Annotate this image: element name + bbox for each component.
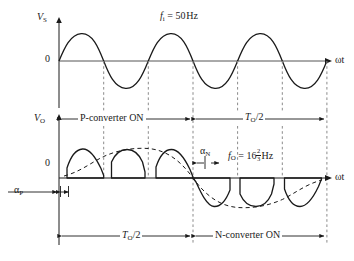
supply-y-axis-label: VS — [37, 12, 47, 24]
supply-crossing-guides — [104, 61, 327, 112]
output-frequency-value: 16 — [246, 150, 256, 161]
output-zero-label: 0 — [45, 158, 50, 168]
waveform-canvas — [0, 0, 354, 261]
half-period-top-label: TO/2 — [243, 112, 265, 124]
cycloconverter-waveform-figure: VS 0 ωt fi = 50 Hz VO 0 ωt P-converter O… — [0, 0, 354, 261]
output-frequency-fraction: 23 — [256, 148, 260, 162]
output-frequency-unit: Hz — [262, 150, 274, 161]
output-frequency-sub: O — [231, 154, 236, 162]
output-frequency-label: fO = 1623 Hz — [228, 148, 273, 162]
input-frequency-unit: Hz — [186, 10, 198, 21]
p-converter-label: P-converter ON — [78, 113, 146, 123]
output-y-axis-arrow — [56, 114, 62, 120]
output-positive-hump-3 — [156, 150, 193, 179]
input-frequency-sub: i — [163, 15, 165, 23]
half-period-bottom-label: TO/2 — [120, 230, 142, 242]
output-frequency-fraction-denominator: 3 — [256, 156, 260, 163]
output-frequency-equals: = — [238, 150, 244, 161]
supply-y-axis-label-sub: S — [43, 16, 47, 24]
output-x-axis-arrow — [325, 175, 332, 181]
half-period-bottom-rest: /2 — [133, 229, 141, 240]
output-x-axis-label: ωt — [335, 172, 344, 182]
alpha-p-label: αP — [14, 185, 23, 197]
output-positive-hump-2 — [112, 150, 146, 179]
supply-x-axis-label: ωt — [335, 55, 344, 65]
half-period-top-rest: /2 — [256, 111, 264, 122]
n-converter-label: N-converter ON — [213, 230, 282, 240]
output-negative-hump-2 — [240, 178, 274, 207]
output-y-axis-label-sub: O — [40, 117, 45, 125]
input-frequency-equals: = — [167, 10, 173, 21]
alpha-n-label: αN — [200, 146, 210, 158]
input-frequency-value: 50 — [175, 10, 185, 21]
input-frequency-label: fi = 50 Hz — [160, 11, 198, 23]
output-y-axis-label: VO — [34, 113, 45, 125]
supply-y-axis-arrow — [56, 17, 62, 23]
output-negative-hump-1 — [193, 178, 230, 207]
alpha-n-sub: N — [205, 150, 210, 158]
supply-zero-label: 0 — [45, 54, 50, 64]
alpha-p-sub: P — [19, 189, 23, 197]
